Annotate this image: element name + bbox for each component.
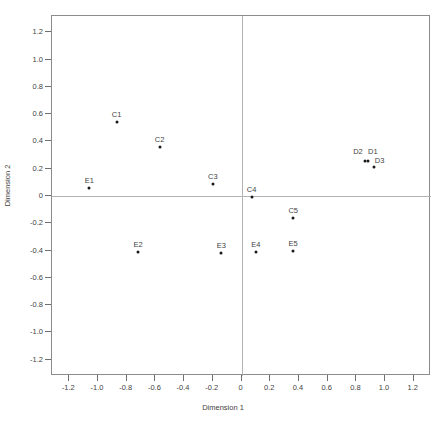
data-point [372, 166, 375, 169]
x-tick-label: -0.2 [205, 383, 218, 392]
data-point-label: E3 [217, 241, 226, 250]
x-tick-mark [413, 375, 414, 381]
y-tick-mark [45, 304, 51, 305]
data-point-label: E2 [134, 240, 143, 249]
data-point-label: C5 [288, 206, 298, 215]
data-point-label: C1 [112, 110, 122, 119]
data-point-label: E5 [289, 239, 298, 248]
y-tick-label: -0.8 [30, 300, 43, 309]
y-tick-label: 0.2 [33, 163, 43, 172]
data-point-label: C4 [247, 185, 257, 194]
data-point-label: C2 [155, 135, 165, 144]
scatter-chart: C1C2C3C4C5D1D2D3E1E2E3E4E5 1.21.00.80.60… [0, 0, 446, 424]
x-tick-label: -0.4 [177, 383, 190, 392]
x-tick-label: 0.8 [350, 383, 360, 392]
y-tick-label: 0 [39, 191, 43, 200]
data-point-label: E4 [251, 240, 260, 249]
data-point-label: D1 [368, 147, 378, 156]
x-tick-mark [183, 375, 184, 381]
y-tick-label: 0.4 [33, 136, 43, 145]
data-point [211, 182, 214, 185]
y-tick-mark [45, 86, 51, 87]
y-tick-label: 0.6 [33, 109, 43, 118]
data-point [137, 250, 140, 253]
data-point [292, 216, 295, 219]
x-tick-mark [269, 375, 270, 381]
data-point [366, 159, 369, 162]
data-point [158, 145, 161, 148]
x-tick-label: 1.0 [379, 383, 389, 392]
y-axis-title: Dimension 2 [3, 136, 12, 236]
y-tick-label: -0.4 [30, 245, 43, 254]
data-point [363, 159, 366, 162]
y-tick-label: 1.0 [33, 54, 43, 63]
y-tick-mark [45, 59, 51, 60]
y-tick-mark [45, 113, 51, 114]
y-tick-mark [45, 277, 51, 278]
data-point-label: D2 [353, 147, 363, 156]
plot-area: C1C2C3C4C5D1D2D3E1E2E3E4E5 [51, 15, 430, 375]
y-tick-mark [45, 331, 51, 332]
x-tick-label: -0.8 [119, 383, 132, 392]
y-tick-mark [45, 222, 51, 223]
x-tick-label: -1.0 [90, 383, 103, 392]
x-tick-mark [241, 375, 242, 381]
x-tick-mark [327, 375, 328, 381]
data-point [250, 196, 253, 199]
zero-line-vertical [242, 16, 243, 376]
x-tick-mark [384, 375, 385, 381]
x-tick-mark [212, 375, 213, 381]
data-point-label: D3 [375, 156, 385, 165]
x-tick-label: 0.2 [264, 383, 274, 392]
x-tick-mark [68, 375, 69, 381]
y-tick-label: -1.0 [30, 327, 43, 336]
y-tick-mark [45, 140, 51, 141]
x-tick-mark [154, 375, 155, 381]
data-point-label: E1 [85, 176, 94, 185]
data-point [115, 121, 118, 124]
y-tick-label: -0.2 [30, 218, 43, 227]
x-tick-label: 0 [238, 383, 242, 392]
y-tick-mark [45, 359, 51, 360]
x-axis-title: Dimension 1 [0, 403, 446, 412]
x-tick-label: -0.6 [148, 383, 161, 392]
data-point [220, 252, 223, 255]
y-tick-mark [45, 168, 51, 169]
x-tick-label: 0.6 [321, 383, 331, 392]
x-tick-mark [97, 375, 98, 381]
x-tick-label: -1.2 [62, 383, 75, 392]
data-point [88, 186, 91, 189]
data-point-label: C3 [208, 172, 218, 181]
x-tick-label: 1.2 [408, 383, 418, 392]
data-point [292, 249, 295, 252]
y-tick-label: 0.8 [33, 81, 43, 90]
data-point [254, 250, 257, 253]
y-tick-mark [45, 31, 51, 32]
x-tick-mark [126, 375, 127, 381]
y-tick-label: -0.6 [30, 272, 43, 281]
x-tick-mark [298, 375, 299, 381]
y-tick-label: 1.2 [33, 27, 43, 36]
x-tick-label: 0.4 [293, 383, 303, 392]
y-tick-mark [45, 195, 51, 196]
y-tick-label: -1.2 [30, 354, 43, 363]
x-tick-mark [355, 375, 356, 381]
y-tick-mark [45, 250, 51, 251]
